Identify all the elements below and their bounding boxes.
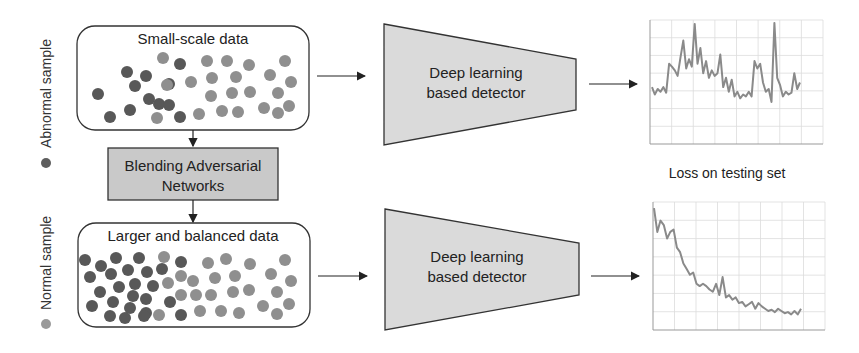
normal-swatch-icon — [41, 319, 51, 329]
gan-label-line2: Networks — [162, 177, 225, 194]
top-detector-line1: Deep learning — [429, 64, 522, 81]
chart-caption: Loss on testing set — [669, 165, 786, 181]
bottom-detector-line2: based detector — [427, 268, 526, 285]
top-loss-chart — [650, 20, 823, 144]
bottom-loss-curve — [654, 208, 801, 314]
top-loss-curve — [652, 23, 800, 102]
small-scale-data-title: Small-scale data — [138, 30, 250, 47]
top-detector-line2: based detector — [426, 84, 525, 101]
legend-abnormal-label: Abnormal sample — [38, 39, 54, 148]
small-scale-data-box: Small-scale data — [77, 26, 309, 130]
bottom-loss-chart — [653, 202, 825, 330]
abnormal-swatch-icon — [41, 158, 51, 168]
legend: Abnormal sample Normal sample — [38, 39, 54, 329]
balanced-data-title: Larger and balanced data — [108, 227, 280, 244]
blending-adversarial-networks-box: Blending Adversarial Networks — [108, 148, 278, 200]
larger-balanced-data-box: Larger and balanced data — [78, 223, 310, 327]
top-detector: Deep learning based detector — [384, 24, 576, 145]
legend-normal-label: Normal sample — [38, 216, 54, 310]
gan-label-line1: Blending Adversarial — [125, 157, 262, 174]
bottom-detector: Deep learning based detector — [385, 209, 579, 330]
legend-abnormal: Abnormal sample — [38, 39, 54, 168]
legend-normal: Normal sample — [38, 216, 54, 329]
bottom-detector-line1: Deep learning — [430, 248, 523, 265]
